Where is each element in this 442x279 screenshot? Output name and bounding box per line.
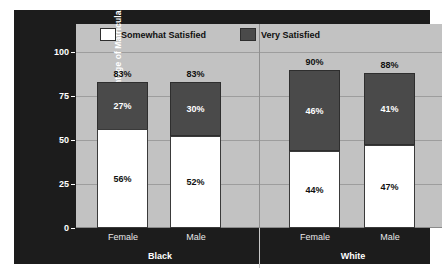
bar-segment-somewhat-satisfied-white-male: 47% [364, 145, 415, 228]
bar-value-label-somewhat-satisfied-white-male: 47% [365, 182, 414, 192]
x-tick-label-black-male: Male [186, 232, 206, 242]
chart-panel: 100 75 50 25 0 Percentage of Matriculant… [14, 10, 430, 264]
bar-segment-somewhat-satisfied-white-female: 44% [289, 151, 340, 228]
plot-area: 100 75 50 25 0 Percentage of Matriculant… [76, 24, 442, 228]
bar-value-label-somewhat-satisfied-white-female: 44% [290, 185, 339, 195]
bar-value-label-somewhat-satisfied-black-male: 52% [171, 177, 220, 187]
bar-white-male: 88% 41% 47% [364, 73, 415, 228]
bar-black-female: 83% 27% 56% [97, 82, 148, 228]
bar-segment-very-satisfied-black-male: 30% [170, 82, 221, 136]
bar-segment-very-satisfied-white-female: 46% [289, 70, 340, 151]
bar-total-label-white-male: 88% [352, 60, 427, 70]
x-axis-group-divider [259, 228, 260, 268]
bar-value-label-very-satisfied-white-female: 46% [290, 106, 339, 116]
x-tick-label-white-male: Male [380, 232, 400, 242]
y-tick-50: 50 [59, 135, 76, 145]
bar-segment-very-satisfied-white-male: 41% [364, 73, 415, 145]
bar-value-label-very-satisfied-black-male: 30% [171, 104, 220, 114]
legend-label-very-satisfied: Very Satisfied [261, 30, 320, 40]
bar-segment-somewhat-satisfied-black-male: 52% [170, 136, 221, 228]
y-tick-0: 0 [64, 223, 76, 233]
y-tick-25: 25 [59, 179, 76, 189]
x-group-label-black: Black [148, 251, 172, 261]
group-divider [259, 24, 260, 228]
legend-item-somewhat-satisfied: Somewhat Satisfied [100, 28, 206, 41]
bar-white-female: 90% 46% 44% [289, 70, 340, 228]
y-tick-100: 100 [54, 47, 76, 57]
bar-total-label-white-female: 90% [277, 57, 352, 67]
bar-segment-somewhat-satisfied-black-female: 56% [97, 129, 148, 228]
legend-swatch-icon-very-satisfied [240, 28, 256, 41]
legend-label-somewhat-satisfied: Somewhat Satisfied [121, 30, 206, 40]
bar-total-label-black-male: 83% [158, 69, 233, 79]
x-axis-band: Female Male Female Male Black White [76, 228, 442, 274]
legend-item-very-satisfied: Very Satisfied [240, 28, 320, 41]
chart-figure: 100 75 50 25 0 Percentage of Matriculant… [0, 0, 442, 279]
bar-value-label-very-satisfied-black-female: 27% [98, 101, 147, 111]
bar-black-male: 83% 30% 52% [170, 82, 221, 228]
legend-swatch-icon-somewhat-satisfied [100, 28, 116, 41]
y-tick-75: 75 [59, 91, 76, 101]
x-tick-label-white-female: Female [300, 232, 330, 242]
x-tick-label-black-female: Female [108, 232, 138, 242]
chart-legend: Somewhat Satisfied Very Satisfied [100, 28, 320, 41]
bar-value-label-somewhat-satisfied-black-female: 56% [98, 174, 147, 184]
bar-total-label-black-female: 83% [85, 69, 160, 79]
bar-segment-very-satisfied-black-female: 27% [97, 82, 148, 130]
bar-value-label-very-satisfied-white-male: 41% [365, 104, 414, 114]
x-group-label-white: White [341, 251, 366, 261]
